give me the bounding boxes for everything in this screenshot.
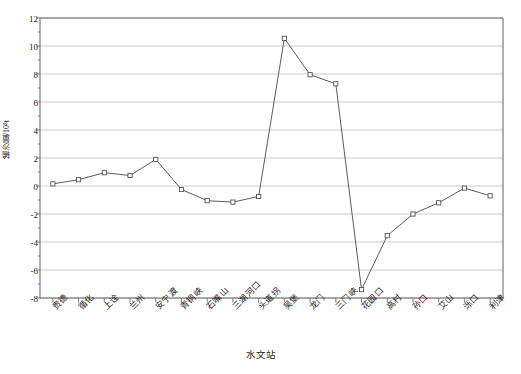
sediment-load-chart-figure: 输沙量/10⁸t 12 10 8 6 4 2 0 -2 -4 -6 -8 贵德循…: [0, 0, 521, 374]
y-axis-ticks: [36, 18, 40, 298]
cropped-caption: [0, 367, 521, 374]
data-point-marker: [179, 187, 183, 191]
data-series-line: [53, 38, 490, 289]
data-point-marker: [282, 36, 286, 40]
data-point-marker: [102, 171, 106, 175]
gridlines: [40, 18, 503, 298]
data-point-marker: [308, 73, 312, 77]
data-point-markers: [51, 36, 492, 292]
data-point-marker: [128, 173, 132, 177]
data-point-marker: [385, 234, 389, 238]
data-point-marker: [334, 82, 338, 86]
data-point-marker: [462, 186, 466, 190]
data-point-marker: [51, 182, 55, 186]
x-axis-title: 水文站: [0, 347, 521, 361]
data-point-marker: [231, 200, 235, 204]
data-point-marker: [257, 194, 261, 198]
data-point-marker: [359, 288, 363, 292]
chart-plot-area: [0, 0, 521, 374]
data-point-marker: [154, 157, 158, 161]
data-point-marker: [76, 178, 80, 182]
data-point-marker: [488, 194, 492, 198]
data-point-marker: [437, 201, 441, 205]
data-point-marker: [411, 212, 415, 216]
data-point-marker: [205, 199, 209, 203]
